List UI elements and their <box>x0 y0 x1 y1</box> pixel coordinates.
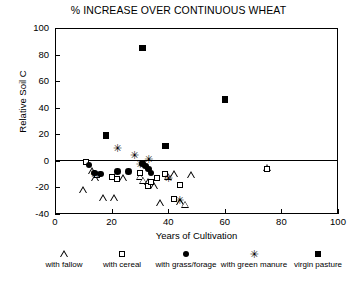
x-tick-mark <box>55 209 56 214</box>
x-tick-mark <box>338 209 339 214</box>
x-tick-label: 0 <box>35 217 75 227</box>
x-tick-mark <box>225 209 226 214</box>
marker-open-triangle <box>156 199 164 206</box>
marker-asterisk: ✳ <box>113 144 122 153</box>
x-axis-label: Years of Cultivation <box>55 230 338 241</box>
y-tick-mark <box>55 134 60 135</box>
y-axis-label: Relative Soil C <box>17 47 28 157</box>
legend-item-virgin-pasture[interactable]: virgin pasture <box>278 248 357 270</box>
marker-filled-circle <box>114 168 121 175</box>
marker-open-square <box>264 166 270 172</box>
marker-filled-circle <box>183 251 190 258</box>
marker-open-triangle <box>79 186 87 193</box>
marker-filled-square <box>139 45 146 52</box>
marker-open-triangle <box>110 194 118 201</box>
marker-asterisk: ✳ <box>144 155 153 164</box>
y-tick-mark <box>55 187 60 188</box>
marker-open-triangle <box>99 194 107 201</box>
marker-asterisk: ✳ <box>250 250 259 259</box>
x-tick-label: 60 <box>205 217 245 227</box>
y-tick-mark <box>55 108 60 109</box>
y-tick-label: -20 <box>9 182 49 192</box>
y-tick-label: 40 <box>9 103 49 113</box>
chart-figure: % INCREASE OVER CONTINUOUS WHEAT Relativ… <box>0 0 357 284</box>
marker-open-square <box>114 176 120 182</box>
zero-reference-line <box>55 160 338 161</box>
y-tick-mark <box>55 28 60 29</box>
x-tick-label: 40 <box>148 217 188 227</box>
marker-open-square <box>119 251 125 257</box>
x-tick-label: 80 <box>261 217 301 227</box>
x-tick-mark <box>281 209 282 214</box>
x-tick-mark <box>168 209 169 214</box>
marker-filled-square <box>162 143 169 150</box>
marker-open-triangle <box>187 171 195 178</box>
marker-filled-square <box>103 132 110 139</box>
legend-label: virgin pasture <box>278 260 357 270</box>
y-tick-mark <box>55 214 60 215</box>
marker-filled-circle <box>125 168 132 175</box>
y-tick-mark <box>55 161 60 162</box>
marker-asterisk: ✳ <box>90 170 99 179</box>
y-tick-mark <box>55 55 60 56</box>
x-tick-label: 100 <box>318 217 357 227</box>
marker-open-square <box>177 182 183 188</box>
y-tick-label: 80 <box>9 50 49 60</box>
chart-title: % INCREASE OVER CONTINUOUS WHEAT <box>0 4 357 16</box>
marker-asterisk: ✳ <box>164 174 173 183</box>
marker-open-square <box>154 175 160 181</box>
chart-legend: with fallowwith cerealwith grass/forage✳… <box>0 248 357 282</box>
y-tick-label: 100 <box>9 23 49 33</box>
marker-asterisk: ✳ <box>175 196 184 205</box>
y-tick-label: 20 <box>9 129 49 139</box>
y-tick-label: 0 <box>9 156 49 166</box>
marker-filled-square <box>315 251 322 258</box>
marker-filled-square <box>222 96 229 103</box>
x-tick-label: 20 <box>92 217 132 227</box>
marker-open-triangle <box>60 250 68 257</box>
y-tick-label: 60 <box>9 76 49 86</box>
legend-symbol <box>278 248 357 260</box>
y-tick-mark <box>55 81 60 82</box>
x-tick-mark <box>112 209 113 214</box>
plot-area <box>55 28 338 214</box>
